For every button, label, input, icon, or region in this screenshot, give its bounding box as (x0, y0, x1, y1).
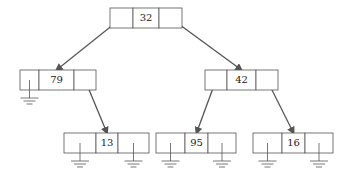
tree-node-32: 32 (110, 8, 182, 28)
node-key: 79 (50, 74, 63, 85)
tree-node-42: 42 (205, 70, 278, 90)
tree-diagram: 327942139516 (0, 0, 352, 181)
node-key: 16 (287, 137, 300, 148)
nodes-layer: 327942139516 (20, 8, 333, 167)
right-pointer-cell (74, 70, 96, 90)
tree-node-13: 13 (64, 133, 149, 167)
right-pointer-cell (159, 8, 182, 28)
node-key: 42 (235, 74, 248, 85)
right-pointer-cell (256, 70, 278, 90)
node-key: 95 (190, 137, 203, 148)
left-pointer-cell (205, 70, 227, 90)
tree-node-95: 95 (156, 133, 236, 167)
tree-node-16: 16 (253, 133, 333, 167)
node-key: 13 (101, 137, 114, 148)
left-pointer-cell (110, 8, 133, 28)
tree-node-79: 79 (20, 70, 96, 104)
node-key: 32 (140, 12, 153, 23)
